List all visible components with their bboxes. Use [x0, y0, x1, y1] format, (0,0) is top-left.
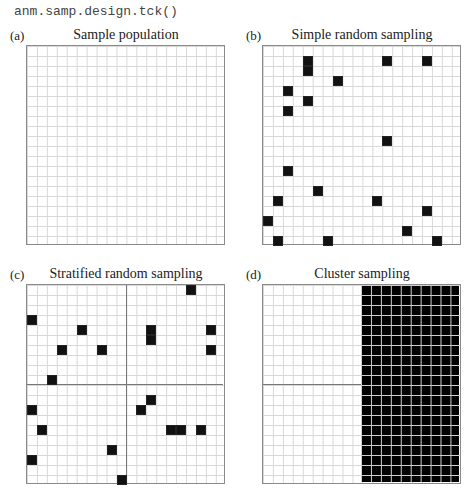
sampled-unit: [136, 405, 146, 415]
panel-c-title: Stratified random sampling: [26, 266, 226, 282]
stratified-grid: [26, 284, 225, 484]
sampled-unit: [313, 186, 323, 196]
cluster-horizontal-divider: [263, 384, 362, 385]
code-label: anm.samp.design.tck(): [14, 4, 178, 19]
sampled-unit: [117, 475, 127, 485]
panel-b-letter: (b): [246, 28, 261, 44]
sampled-unit: [206, 345, 216, 355]
sampled-unit: [146, 335, 156, 345]
sampled-unit: [283, 106, 293, 116]
panel-d-title: Cluster sampling: [262, 266, 462, 282]
sampled-unit: [303, 66, 313, 76]
sampled-unit: [283, 166, 293, 176]
sampled-unit: [77, 325, 87, 335]
panel-a-title: Sample population: [26, 27, 226, 43]
sampled-unit: [146, 325, 156, 335]
sampled-unit: [196, 425, 206, 435]
sampled-unit: [273, 236, 283, 246]
sampled-unit: [186, 285, 196, 295]
panel-c-letter: (c): [10, 267, 24, 283]
sampled-unit: [166, 425, 176, 435]
sampled-unit: [146, 395, 156, 405]
sampled-unit: [432, 236, 442, 246]
sampled-unit: [37, 425, 47, 435]
sampled-unit: [382, 56, 392, 66]
sampled-unit: [303, 96, 313, 106]
panel-a-letter: (a): [10, 28, 24, 44]
sampled-unit: [382, 136, 392, 146]
sampled-unit: [206, 325, 216, 335]
sampled-unit: [263, 216, 273, 226]
sampled-unit: [283, 86, 293, 96]
sampled-unit: [323, 236, 333, 246]
sampled-unit: [47, 375, 57, 385]
panel-d-letter: (d): [246, 267, 261, 283]
simple-random-grid: [262, 45, 461, 245]
sampled-unit: [27, 315, 37, 325]
sampled-unit: [402, 226, 412, 236]
population-grid: [26, 45, 225, 245]
sampled-unit: [273, 196, 283, 206]
sampled-unit: [333, 76, 343, 86]
sampled-unit: [57, 345, 67, 355]
sampled-unit: [27, 405, 37, 415]
sampled-unit: [27, 455, 37, 465]
sampled-unit: [176, 425, 186, 435]
sampled-unit: [97, 345, 107, 355]
sampled-unit: [422, 206, 432, 216]
sampled-unit: [107, 445, 117, 455]
sampled-unit: [422, 56, 432, 66]
selected-cluster: [361, 285, 459, 482]
cluster-grid: [262, 284, 461, 484]
sampled-unit: [303, 56, 313, 66]
sampled-unit: [372, 196, 382, 206]
panel-b-title: Simple random sampling: [262, 27, 462, 43]
